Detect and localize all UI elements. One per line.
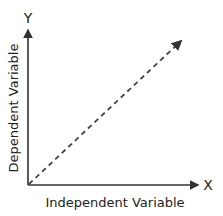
- x-axis-letter: X: [203, 177, 213, 193]
- y-axis-label: Dependent Variable: [6, 44, 21, 173]
- dashed-trend-line: [29, 41, 181, 184]
- y-axis-letter: Y: [23, 10, 33, 26]
- x-axis-label: Independent Variable: [45, 195, 184, 210]
- diagram-canvas: Y X Independent Variable Dependent Varia…: [0, 0, 223, 216]
